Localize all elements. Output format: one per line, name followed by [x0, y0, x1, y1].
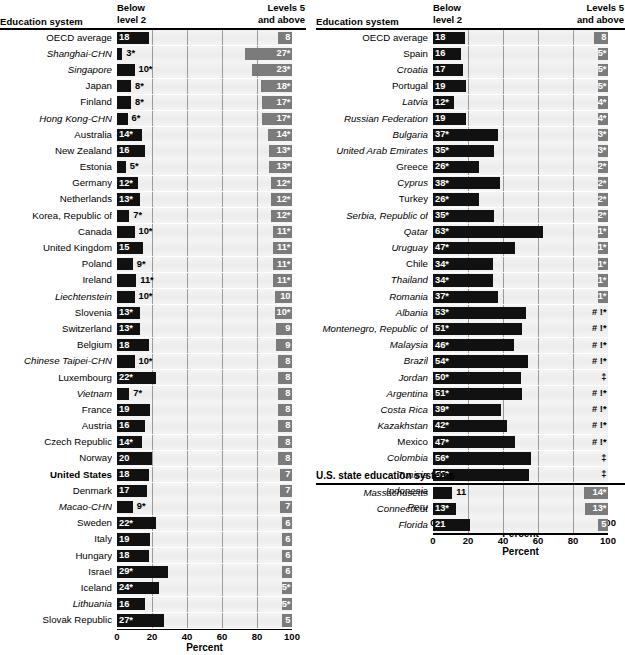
row-plot: 63*1* [433, 224, 608, 239]
row-plot: 53*# !* [433, 305, 608, 320]
row-plot: 8*17* [117, 95, 292, 110]
gridline [538, 501, 539, 516]
gridline [222, 338, 223, 353]
row-label: Ireland [0, 272, 112, 288]
gridline [152, 499, 153, 514]
gridline [152, 418, 153, 433]
gridline [573, 354, 574, 369]
chart-row: Sweden22*6 [0, 515, 306, 531]
chart-rows-left: OECD average188Shanghai-CHN3*27*Singapor… [0, 30, 306, 629]
below-level2-value: 16 [117, 418, 129, 433]
header-below-level-2: Below level 2 [433, 2, 462, 25]
gridline [538, 62, 539, 77]
gridline [257, 321, 258, 336]
levels5-value: 17* [277, 95, 291, 110]
gridline [187, 127, 188, 142]
chart-row: Argentina51*# !* [316, 386, 625, 402]
gridline [222, 386, 223, 401]
gridline [152, 402, 153, 417]
gridline [257, 30, 258, 45]
levels5-value: 12* [277, 192, 291, 207]
gridline [538, 289, 539, 304]
below-level2-value: 18 [117, 30, 129, 45]
gridline [573, 501, 574, 516]
below-level2-value: 38* [433, 176, 449, 191]
row-label: Vietnam [0, 386, 112, 402]
levels5-value: 8 [285, 418, 290, 433]
below-level2-value: 39* [433, 402, 449, 417]
below-level2-bar [433, 226, 543, 238]
gridline [222, 435, 223, 450]
gridline [468, 111, 469, 126]
row-plot: 8*18* [117, 79, 292, 94]
below-level2-value: 17 [433, 62, 445, 77]
axis-tick-label: 60 [217, 631, 228, 642]
below-level2-value: 19 [117, 532, 129, 547]
gridline [257, 143, 258, 158]
gridline [187, 516, 188, 531]
row-plot: 196 [117, 532, 292, 547]
gridline [152, 127, 153, 142]
chart-row: Shanghai-CHN3*27* [0, 46, 306, 62]
row-label: Greece [316, 159, 428, 175]
chart-row: France198 [0, 402, 306, 418]
gridline [573, 79, 574, 94]
row-plot: 51*# !* [433, 386, 608, 401]
row-label: Netherlands [0, 191, 112, 207]
axis-tick-label: 40 [498, 535, 509, 546]
gridline [503, 517, 504, 532]
header-levels5-line2: and above [577, 14, 624, 26]
levels5-value: 12* [277, 176, 291, 191]
gridline [222, 257, 223, 272]
below-level2-value: 13* [117, 321, 133, 336]
below-level2-value: 21 [433, 517, 445, 532]
chart-row: Massachusetts1114* [316, 485, 625, 501]
levels5-value: 5* [598, 62, 607, 77]
row-plot: 10*23* [117, 62, 292, 77]
below-level2-value: 12* [433, 95, 449, 110]
header-below-level-2: Below level 2 [117, 2, 146, 25]
below-level2-bar [117, 161, 126, 173]
row-plot: 22*8 [117, 370, 292, 385]
row-band [433, 95, 608, 110]
below-level2-value: 12* [117, 176, 133, 191]
header-below-line1: Below [433, 2, 462, 14]
gridline [152, 79, 153, 94]
below-level2-value: 5* [128, 159, 139, 174]
gridline [503, 192, 504, 207]
row-plot: 13*12* [117, 192, 292, 207]
gridline [257, 224, 258, 239]
gridline [538, 192, 539, 207]
gridline [152, 435, 153, 450]
levels5-value: 13* [593, 501, 607, 516]
chart-row: Netherlands13*12* [0, 191, 306, 207]
levels5-value: 2* [598, 159, 607, 174]
row-label: Cyprus [316, 175, 428, 191]
below-level2-value: 16 [117, 597, 129, 612]
chart-row: Norway208 [0, 450, 306, 466]
gridline [187, 192, 188, 207]
gridline [257, 338, 258, 353]
below-level2-value: 7* [131, 208, 142, 223]
row-plot: 29*6 [117, 564, 292, 579]
row-plot: 13*13* [433, 501, 608, 516]
row-plot: 35*3* [433, 143, 608, 158]
gridline [187, 499, 188, 514]
gridline [152, 240, 153, 255]
gridline [573, 127, 574, 142]
levels5-value: 2* [598, 176, 607, 191]
gridline [222, 305, 223, 320]
gridline [468, 30, 469, 45]
below-level2-value: 35* [433, 143, 449, 158]
gridline [503, 159, 504, 174]
gridline [503, 95, 504, 110]
gridline [187, 95, 188, 110]
row-label: Montenegro, Republic of [316, 321, 428, 337]
axis-tick-label: 0 [430, 535, 435, 546]
below-level2-value: 22* [117, 516, 133, 531]
axis-tick-label: 0 [114, 631, 119, 642]
gridline [257, 208, 258, 223]
levels5-value: # !* [592, 338, 606, 353]
below-level2-value: 16 [117, 143, 129, 158]
